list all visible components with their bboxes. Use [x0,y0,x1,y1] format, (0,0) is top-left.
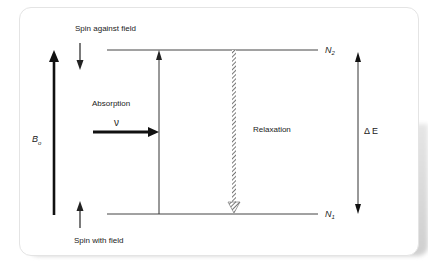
delta-e-label: Δ E [364,126,378,136]
upper-level-label: N2 [325,45,336,56]
lower-level-label: N1 [325,209,335,220]
field-label: Bo [32,134,42,146]
relaxation-label: Relaxation [253,125,291,134]
spin-against-field-label: Spin against field [75,24,136,33]
spin-down-arrow [77,43,84,70]
spin-up-arrow [77,201,84,228]
energy-gap-arrow [355,52,361,214]
radiation-arrow [93,127,159,137]
frequency-nu-label: ν [114,117,119,128]
relaxation-arrow [228,50,240,213]
spin-with-field-label: Spin with field [74,236,123,245]
absorption-label: Absorption [92,99,130,108]
field-arrow [49,50,59,215]
